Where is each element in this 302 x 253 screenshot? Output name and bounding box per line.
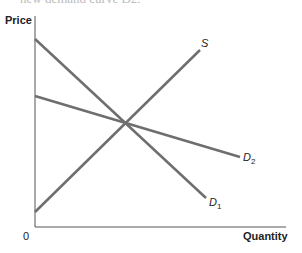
x-axis-label: Quantity <box>243 230 288 242</box>
y-axis-label: Price <box>5 14 32 26</box>
supply-label: S <box>201 37 208 49</box>
demand-1-label: D1 <box>209 196 221 211</box>
supply-demand-chart <box>0 0 302 253</box>
demand-2-label: D2 <box>243 151 255 166</box>
demand-curve-d1 <box>35 39 206 198</box>
demand-curve-d2 <box>35 96 240 157</box>
origin-label: 0 <box>23 230 29 242</box>
supply-curve-s <box>35 50 200 212</box>
